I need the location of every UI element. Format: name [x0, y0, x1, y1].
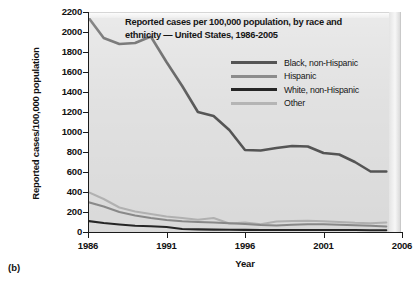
- x-axis-tick-label: 2001: [304, 240, 344, 251]
- y-axis-tick-label: 400: [48, 186, 82, 197]
- y-axis-tick-label: 0: [48, 226, 82, 237]
- y-axis-tick: [83, 32, 89, 33]
- x-axis-tick: [88, 232, 89, 238]
- series-line: [89, 192, 386, 224]
- legend-item-label: White, non-Hispanic: [284, 85, 359, 95]
- legend-color-swatch: [231, 61, 277, 64]
- legend-color-swatch: [231, 102, 277, 105]
- x-axis-tick-label: 1986: [68, 240, 108, 251]
- y-axis-tick: [83, 72, 89, 73]
- x-axis-tick: [324, 232, 325, 238]
- plot-panel: [89, 12, 401, 233]
- chart-title: Reported cases per 100,000 population, b…: [125, 16, 393, 41]
- x-axis-tick: [245, 232, 246, 238]
- y-axis-tick-label: 600: [48, 166, 82, 177]
- x-axis-tick: [402, 232, 403, 238]
- y-axis-line: [88, 12, 89, 233]
- y-axis-tick: [83, 112, 89, 113]
- y-axis-tick-label: 1400: [48, 86, 82, 97]
- chart-title-line-2: ethnicity — United States, 1986-2005: [125, 29, 393, 42]
- x-axis-title: Year: [88, 258, 402, 269]
- figure-panel-b: 0200400600800100012001400160018002000220…: [0, 0, 413, 288]
- legend-item-label: Hispanic: [284, 71, 316, 81]
- x-axis-tick-label: 1991: [147, 240, 187, 251]
- y-axis-title: Reported cases/100,000 population: [30, 29, 41, 219]
- y-axis-tick-label: 1600: [48, 66, 82, 77]
- x-axis-tick-label: 2006: [382, 240, 413, 251]
- y-axis-tick-label: 1800: [48, 46, 82, 57]
- legend-color-swatch: [231, 75, 277, 78]
- series-lines: [89, 18, 389, 233]
- y-axis-tick: [83, 192, 89, 193]
- y-axis-tick: [83, 132, 89, 133]
- legend-item[interactable]: White, non-Hispanic: [231, 83, 396, 97]
- legend-item[interactable]: Black, non-Hispanic: [231, 56, 396, 70]
- y-axis-tick: [83, 92, 89, 93]
- y-axis-tick-label: 200: [48, 206, 82, 217]
- y-axis-tick: [83, 172, 89, 173]
- y-axis-tick-label: 2200: [48, 6, 82, 17]
- y-axis-tick: [83, 212, 89, 213]
- y-axis-tick-label: 800: [48, 146, 82, 157]
- panel-label: (b): [8, 262, 20, 273]
- chart-title-line-1: Reported cases per 100,000 population, b…: [125, 16, 393, 29]
- chart-legend: Black, non-HispanicHispanicWhite, non-Hi…: [231, 56, 396, 110]
- x-axis-tick-label: 1996: [225, 240, 265, 251]
- legend-item[interactable]: Other: [231, 97, 396, 111]
- y-axis-tick-label: 1000: [48, 126, 82, 137]
- y-axis-tick: [83, 152, 89, 153]
- legend-color-swatch: [231, 88, 277, 91]
- y-axis-tick: [83, 12, 89, 13]
- y-axis-tick: [83, 52, 89, 53]
- plot-area: [89, 18, 389, 233]
- x-axis-tick: [167, 232, 168, 238]
- legend-item-label: Black, non-Hispanic: [284, 58, 358, 68]
- legend-item[interactable]: Hispanic: [231, 70, 396, 84]
- y-axis-tick-label: 2000: [48, 26, 82, 37]
- y-axis-tick-label: 1200: [48, 106, 82, 117]
- panel-right-bevel: [389, 12, 401, 233]
- legend-item-label: Other: [284, 98, 305, 108]
